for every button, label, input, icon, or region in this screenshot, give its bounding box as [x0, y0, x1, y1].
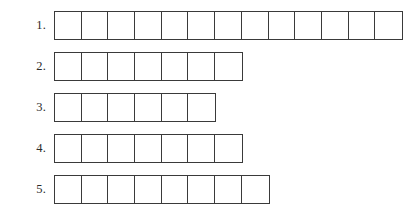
- letter-box[interactable]: [349, 12, 376, 39]
- letter-box[interactable]: [295, 12, 322, 39]
- letter-box[interactable]: [135, 53, 162, 80]
- worksheet-answer-grid: 1. 2. 3.: [0, 0, 420, 223]
- letter-box[interactable]: [108, 12, 135, 39]
- answer-row: 5.: [0, 174, 270, 205]
- letter-box-strip: [54, 175, 270, 204]
- letter-box[interactable]: [55, 176, 82, 203]
- letter-box[interactable]: [162, 135, 189, 162]
- letter-box[interactable]: [188, 12, 215, 39]
- letter-box[interactable]: [55, 135, 82, 162]
- letter-box[interactable]: [108, 135, 135, 162]
- letter-box[interactable]: [162, 53, 189, 80]
- letter-box[interactable]: [82, 94, 109, 121]
- letter-box[interactable]: [162, 12, 189, 39]
- letter-box[interactable]: [242, 12, 269, 39]
- letter-box[interactable]: [108, 94, 135, 121]
- letter-box[interactable]: [188, 176, 215, 203]
- letter-box[interactable]: [135, 135, 162, 162]
- answer-row: 2.: [0, 51, 243, 82]
- letter-box[interactable]: [135, 12, 162, 39]
- letter-box[interactable]: [215, 135, 242, 162]
- letter-box[interactable]: [82, 53, 109, 80]
- letter-box[interactable]: [242, 176, 269, 203]
- letter-box[interactable]: [215, 12, 242, 39]
- letter-box[interactable]: [322, 12, 349, 39]
- letter-box-strip: [54, 134, 243, 163]
- row-number-label: 2.: [0, 60, 54, 73]
- letter-box[interactable]: [82, 135, 109, 162]
- letter-box[interactable]: [215, 53, 242, 80]
- row-number-label: 4.: [0, 142, 54, 155]
- letter-box[interactable]: [188, 53, 215, 80]
- letter-box[interactable]: [55, 94, 82, 121]
- letter-box[interactable]: [55, 12, 82, 39]
- letter-box[interactable]: [188, 135, 215, 162]
- answer-row: 4.: [0, 133, 243, 164]
- letter-box[interactable]: [215, 176, 242, 203]
- letter-box[interactable]: [82, 176, 109, 203]
- letter-box[interactable]: [375, 12, 402, 39]
- letter-box-strip: [54, 93, 216, 122]
- letter-box[interactable]: [55, 53, 82, 80]
- row-number-label: 1.: [0, 19, 54, 32]
- row-number-label: 5.: [0, 183, 54, 196]
- letter-box[interactable]: [135, 94, 162, 121]
- letter-box[interactable]: [269, 12, 296, 39]
- answer-row: 1.: [0, 10, 403, 41]
- letter-box[interactable]: [108, 176, 135, 203]
- row-number-label: 3.: [0, 101, 54, 114]
- letter-box[interactable]: [162, 94, 189, 121]
- letter-box[interactable]: [108, 53, 135, 80]
- letter-box[interactable]: [188, 94, 215, 121]
- answer-row: 3.: [0, 92, 216, 123]
- letter-box-strip: [54, 11, 403, 40]
- letter-box[interactable]: [82, 12, 109, 39]
- letter-box-strip: [54, 52, 243, 81]
- letter-box[interactable]: [135, 176, 162, 203]
- letter-box[interactable]: [162, 176, 189, 203]
